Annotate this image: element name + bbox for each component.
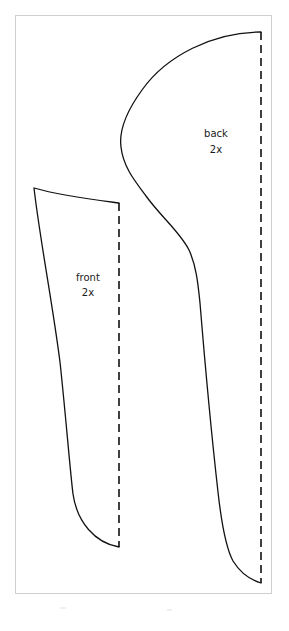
front-piece-label: front: [76, 272, 100, 283]
front-piece-quantity: 2x: [82, 287, 94, 298]
scan-artifact: [60, 607, 66, 609]
sheet-border: [16, 16, 272, 594]
back-piece-quantity: 2x: [210, 144, 222, 155]
pattern-page: front 2x back 2x: [0, 0, 289, 631]
scan-artifact: [167, 609, 172, 611]
pattern-diagram: front 2x back 2x: [0, 0, 289, 631]
back-piece-label: back: [204, 128, 228, 139]
